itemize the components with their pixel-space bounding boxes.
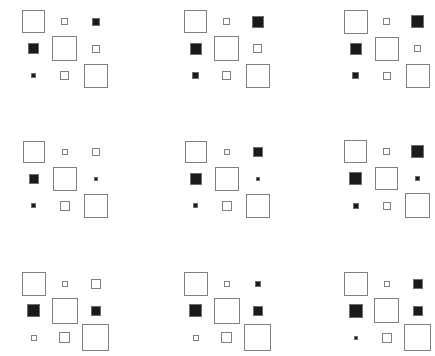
matrix-cell-r0-c0 bbox=[22, 272, 46, 296]
matrix-cell-r2-c0 bbox=[353, 203, 359, 209]
matrix-cell-r1-c1 bbox=[214, 36, 239, 61]
matrix-cell-r0-c2 bbox=[253, 147, 263, 157]
matrix-cell-r0-c1 bbox=[62, 149, 68, 155]
matrix-cell-r0-c1 bbox=[383, 148, 390, 155]
matrix-cell-r0-c1 bbox=[224, 281, 230, 287]
matrix-cell-r0-c0 bbox=[23, 141, 45, 163]
matrix-cell-r2-c0 bbox=[193, 335, 199, 341]
matrix-cell-r0-c2 bbox=[413, 279, 423, 289]
matrix-cell-r2-c2 bbox=[404, 324, 431, 351]
matrix-cell-r2-c1 bbox=[222, 71, 231, 80]
matrix-cell-r1-c1 bbox=[215, 167, 239, 191]
panel-row1-col3 bbox=[330, 0, 435, 119]
panel-row3-col2 bbox=[170, 262, 305, 356]
matrix-cell-r2-c2 bbox=[246, 194, 270, 218]
matrix-cell-r2-c2 bbox=[405, 193, 430, 218]
matrix-cell-r0-c2 bbox=[411, 145, 424, 158]
matrix-cell-r1-c0 bbox=[189, 304, 202, 317]
matrix-cell-r0-c1 bbox=[61, 18, 68, 25]
matrix-cell-r1-c1 bbox=[374, 298, 399, 323]
matrix-cell-r1-c2 bbox=[256, 177, 260, 181]
matrix-cell-r0-c0 bbox=[184, 10, 207, 33]
matrix-cell-r2-c0 bbox=[354, 336, 358, 340]
matrix-cell-r0-c1 bbox=[224, 149, 230, 155]
matrix-cell-r2-c1 bbox=[60, 71, 69, 80]
matrix-cell-r1-c2 bbox=[413, 306, 423, 316]
matrix-cell-r0-c2 bbox=[92, 18, 100, 26]
panel-row1-col2 bbox=[170, 0, 305, 119]
matrix-cell-r2-c1 bbox=[383, 202, 391, 210]
panel-row2-col3 bbox=[330, 130, 435, 249]
matrix-cell-r0-c1 bbox=[223, 18, 230, 25]
matrix-cell-r2-c0 bbox=[352, 72, 359, 79]
matrix-cell-r0-c0 bbox=[344, 10, 368, 34]
matrix-cell-r2-c2 bbox=[84, 64, 108, 88]
matrix-cell-r1-c0 bbox=[190, 173, 202, 185]
matrix-cell-r1-c0 bbox=[190, 43, 202, 55]
matrix-cell-r0-c0 bbox=[185, 141, 207, 163]
matrix-cell-r1-c1 bbox=[375, 37, 399, 61]
matrix-cell-r1-c0 bbox=[27, 304, 40, 317]
panel-row2-col2 bbox=[170, 130, 305, 249]
matrix-cell-r2-c2 bbox=[82, 324, 109, 351]
matrix-cell-r1-c1 bbox=[52, 36, 77, 61]
matrix-cell-r0-c0 bbox=[344, 272, 368, 296]
matrix-cell-r0-c2 bbox=[411, 15, 424, 28]
matrix-cell-r1-c2 bbox=[253, 306, 263, 316]
matrix-cell-r2-c1 bbox=[59, 332, 70, 343]
panel-row1-col1 bbox=[8, 0, 143, 119]
matrix-cell-r1-c1 bbox=[375, 167, 398, 190]
matrix-cell-r0-c2 bbox=[252, 16, 264, 28]
hinton-diagram-figure bbox=[0, 0, 435, 356]
matrix-cell-r1-c2 bbox=[415, 176, 420, 181]
matrix-cell-r2-c1 bbox=[382, 333, 392, 343]
matrix-cell-r1-c0 bbox=[28, 43, 39, 54]
matrix-cell-r0-c0 bbox=[22, 10, 45, 33]
matrix-cell-r2-c0 bbox=[192, 72, 199, 79]
matrix-cell-r0-c1 bbox=[383, 18, 390, 25]
matrix-cell-r1-c0 bbox=[349, 304, 363, 318]
panel-row3-col3 bbox=[330, 262, 435, 356]
matrix-cell-r0-c2 bbox=[255, 281, 261, 287]
matrix-cell-r1-c2 bbox=[253, 44, 262, 53]
matrix-cell-r2-c0 bbox=[193, 203, 198, 208]
matrix-cell-r1-c0 bbox=[29, 174, 39, 184]
matrix-cell-r1-c2 bbox=[91, 306, 101, 316]
matrix-cell-r1-c2 bbox=[94, 177, 98, 181]
matrix-cell-r0-c2 bbox=[92, 148, 100, 156]
matrix-cell-r2-c1 bbox=[221, 332, 232, 343]
matrix-cell-r2-c2 bbox=[84, 194, 108, 218]
matrix-cell-r2-c0 bbox=[31, 203, 36, 208]
matrix-cell-r0-c2 bbox=[91, 279, 101, 289]
matrix-cell-r2-c2 bbox=[406, 64, 430, 88]
matrix-cell-r1-c2 bbox=[92, 45, 100, 53]
matrix-cell-r1-c0 bbox=[349, 172, 362, 185]
matrix-cell-r2-c0 bbox=[31, 335, 37, 341]
matrix-cell-r0-c0 bbox=[344, 140, 367, 163]
matrix-cell-r2-c2 bbox=[246, 64, 270, 88]
panel-row2-col1 bbox=[8, 130, 143, 249]
matrix-cell-r1-c1 bbox=[214, 298, 240, 324]
matrix-cell-r2-c2 bbox=[244, 324, 271, 351]
matrix-cell-r1-c1 bbox=[53, 167, 77, 191]
matrix-cell-r0-c1 bbox=[62, 281, 68, 287]
panel-row3-col1 bbox=[8, 262, 143, 356]
matrix-cell-r1-c0 bbox=[350, 43, 362, 55]
matrix-cell-r0-c0 bbox=[184, 272, 208, 296]
matrix-cell-r1-c1 bbox=[52, 298, 78, 324]
matrix-cell-r2-c0 bbox=[31, 73, 36, 78]
matrix-cell-r2-c1 bbox=[60, 201, 70, 211]
matrix-cell-r2-c1 bbox=[222, 201, 232, 211]
matrix-cell-r2-c1 bbox=[383, 72, 391, 80]
matrix-cell-r0-c1 bbox=[384, 281, 390, 287]
matrix-cell-r1-c2 bbox=[414, 45, 421, 52]
